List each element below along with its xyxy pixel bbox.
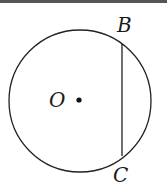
label-o: O — [49, 88, 65, 112]
label-b: B — [116, 13, 132, 37]
circle-diagram: B O C — [0, 0, 167, 187]
center-point — [76, 97, 81, 102]
label-c: C — [113, 163, 128, 187]
